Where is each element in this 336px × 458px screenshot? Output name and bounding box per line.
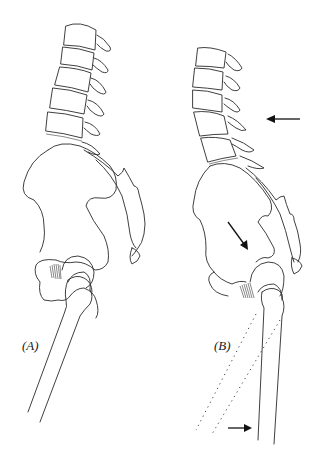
- femur-b: [258, 288, 284, 444]
- hatching-a: [50, 264, 61, 279]
- panel-a-drawing: [23, 24, 145, 422]
- vertebrae-b: [193, 48, 238, 165]
- sacrum-a: [84, 150, 145, 256]
- panel-label-b: (B): [214, 338, 231, 354]
- spinous-processes-b: [224, 54, 264, 169]
- dotted-femur-outline: [196, 314, 280, 434]
- panel-label-a: (A): [22, 338, 39, 354]
- panel-b-drawing: [193, 48, 302, 445]
- figure-drawing: [0, 0, 336, 458]
- anatomy-figure: (A) (B): [0, 0, 336, 458]
- hatching-b: [240, 283, 254, 298]
- sacrum-b: [246, 168, 301, 262]
- lumbar-arrow: [266, 115, 300, 123]
- pelvis-arrow: [228, 222, 248, 250]
- femur-arrow: [228, 424, 252, 432]
- pelvis-a: [23, 144, 116, 318]
